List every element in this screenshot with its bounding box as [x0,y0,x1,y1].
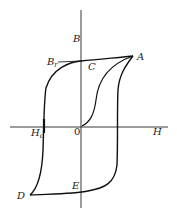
br-label: Br [46,56,58,69]
b-axis-label: B [72,33,80,44]
ascending-branch [30,56,133,195]
point-d-label: D [16,190,25,201]
point-e-label: E [71,180,80,191]
point-a-label: A [136,51,144,62]
point-c-label: C [88,61,96,72]
hc-label: Hc [30,127,44,140]
origin-label: 0 [74,126,80,137]
h-axis-label: H [152,126,162,137]
hysteresis-diagram: B H 0 A C Br Hc D E [0,0,177,214]
